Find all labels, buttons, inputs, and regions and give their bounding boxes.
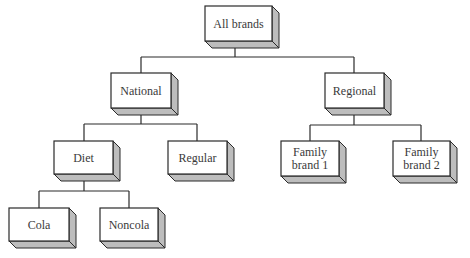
box-bottom-face: [100, 241, 165, 248]
tree-node-diet: Diet: [54, 141, 120, 181]
node-label: Cola: [28, 218, 51, 232]
box-bottom-face: [205, 41, 279, 48]
tree-node-family1: Familybrand 1: [281, 141, 346, 183]
box-bottom-face: [111, 108, 178, 115]
box-bottom-face: [9, 241, 76, 248]
node-label: brand 2: [403, 158, 439, 172]
tree-node-national: National: [111, 73, 178, 115]
node-label: All brands: [213, 17, 264, 31]
tree-node-family2: Familybrand 2: [393, 141, 457, 183]
tree-node-noncola: Noncola: [100, 208, 165, 248]
box-bottom-face: [54, 174, 120, 181]
node-label: Regular: [179, 151, 217, 165]
tree-node-regional: Regional: [325, 73, 391, 115]
node-label: Family: [293, 145, 327, 159]
tree-nodes: All brandsNationalRegionalDietRegularFam…: [9, 6, 457, 248]
tree-node-cola: Cola: [9, 208, 76, 248]
node-label: Noncola: [109, 218, 150, 232]
node-label: Family: [404, 145, 438, 159]
box-bottom-face: [168, 174, 234, 181]
connector-lines: [39, 48, 421, 208]
node-label: brand 1: [292, 158, 328, 172]
node-label: National: [120, 84, 162, 98]
node-label: Regional: [333, 84, 377, 98]
tree-node-regular: Regular: [168, 141, 234, 181]
box-bottom-face: [281, 176, 346, 183]
tree-node-all: All brands: [205, 6, 279, 48]
box-bottom-face: [325, 108, 391, 115]
brand-hierarchy-diagram: All brandsNationalRegionalDietRegularFam…: [0, 0, 470, 258]
box-bottom-face: [393, 176, 457, 183]
node-label: Diet: [73, 151, 94, 165]
